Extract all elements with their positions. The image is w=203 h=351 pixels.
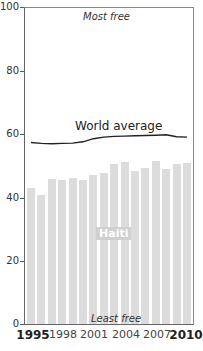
world-average-label: World average: [75, 119, 162, 133]
world-average-line: [0, 0, 203, 351]
haiti-label: Haiti: [96, 227, 131, 240]
